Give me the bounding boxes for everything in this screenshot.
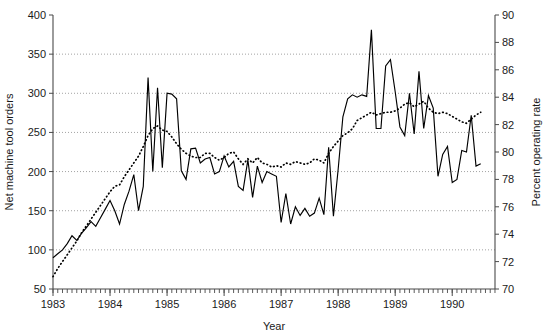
right-tick-label: 88 [502, 36, 514, 48]
x-tick-label: 1988 [326, 298, 350, 310]
left-tick-label: 350 [28, 48, 46, 60]
left-tick-label: 100 [28, 244, 46, 256]
left-tick-label: 400 [28, 9, 46, 21]
right-tick-label: 80 [502, 146, 514, 158]
left-tick-label: 200 [28, 166, 46, 178]
right-tick-label: 90 [502, 9, 514, 21]
left-tick-label: 300 [28, 87, 46, 99]
x-tick-label: 1983 [41, 298, 65, 310]
right-tick-label: 78 [502, 173, 514, 185]
x-tick-label: 1989 [383, 298, 407, 310]
right-tick-label: 84 [502, 91, 514, 103]
right-tick-label: 70 [502, 283, 514, 295]
x-tick-label: 1986 [212, 298, 236, 310]
left-tick-label: 50 [34, 283, 46, 295]
x-axis-title: Year [263, 320, 286, 332]
right-tick-label: 72 [502, 256, 514, 268]
x-tick-label: 1985 [155, 298, 179, 310]
chart-background [0, 0, 548, 335]
right-tick-label: 74 [502, 228, 514, 240]
right-tick-label: 82 [502, 119, 514, 131]
x-tick-label: 1990 [440, 298, 464, 310]
right-axis-title: Percent operating rate [530, 98, 542, 207]
right-tick-label: 86 [502, 64, 514, 76]
left-tick-label: 150 [28, 205, 46, 217]
line-chart-canvas: 50100150200250300350400 7072747678808284… [0, 0, 548, 335]
x-tick-label: 1984 [98, 298, 122, 310]
chart-figure: 50100150200250300350400 7072747678808284… [0, 0, 548, 335]
x-tick-label: 1987 [269, 298, 293, 310]
left-tick-label: 250 [28, 126, 46, 138]
right-tick-label: 76 [502, 201, 514, 213]
left-axis-title: Net machine tool orders [3, 93, 15, 210]
